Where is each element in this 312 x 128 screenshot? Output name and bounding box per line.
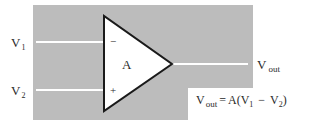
output-label: Vout: [257, 57, 280, 74]
eq-v1-name: V: [241, 93, 250, 107]
eq-v1-subscript: 1: [249, 100, 253, 109]
eq-v2-name: V: [270, 93, 279, 107]
eq-minus: −: [258, 93, 265, 107]
op-amp-diagram: − + A V1 V2 Vout Vout=A(V1−V2): [0, 0, 312, 128]
v2-subscript: 2: [21, 91, 25, 100]
inverting-terminal-sign: −: [110, 35, 116, 47]
gain-label: A: [122, 57, 132, 72]
vout-subscript: out: [268, 64, 280, 74]
v1-name: V: [11, 35, 21, 50]
eq-gain: A(: [228, 93, 241, 107]
v2-name: V: [11, 83, 21, 98]
eq-lhs-name: V: [196, 93, 205, 107]
eq-lhs-subscript: out: [206, 99, 218, 109]
transfer-equation: Vout=A(V1−V2): [196, 93, 287, 109]
eq-equals: =: [219, 93, 226, 107]
input-label-v1: V1: [11, 35, 25, 52]
input-label-v2: V2: [11, 83, 25, 100]
vout-name: V: [257, 57, 267, 72]
noninverting-terminal-sign: +: [110, 84, 116, 96]
eq-close: ): [283, 93, 287, 107]
v1-subscript: 1: [21, 43, 25, 52]
